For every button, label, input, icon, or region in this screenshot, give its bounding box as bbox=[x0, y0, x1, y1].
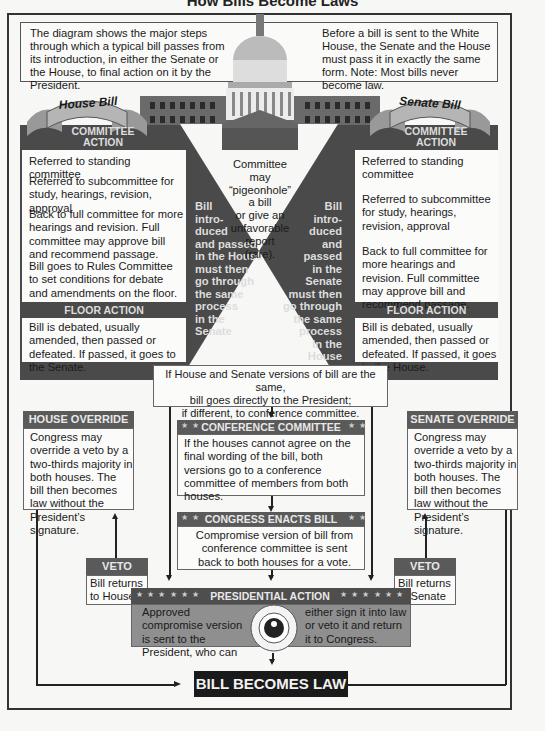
star-icons: ★ ★ bbox=[348, 421, 367, 430]
house-override-header: HOUSE OVERRIDE bbox=[23, 411, 134, 428]
connector-line bbox=[169, 407, 171, 578]
arrow-down-icon bbox=[269, 659, 275, 665]
conference-text: If the houses cannot agree on the final … bbox=[184, 437, 362, 503]
house-committee-header: COMMITTEE ACTION bbox=[22, 126, 184, 148]
senate-override-text: Congress may override a veto by a two-th… bbox=[414, 431, 517, 537]
senate-step-2: Referred to subcommittee for study, hear… bbox=[362, 193, 497, 233]
capitol-dome-icon bbox=[222, 10, 298, 150]
arrow-down-icon bbox=[166, 575, 172, 581]
versions-note: If House and Senate versions of bill are… bbox=[153, 365, 388, 407]
enacts-header: CONGRESS ENACTS BILL bbox=[200, 513, 342, 525]
arrow-down-icon bbox=[268, 412, 274, 418]
house-override-text: Congress may override a veto by a two-th… bbox=[30, 431, 133, 537]
senate-override-header: SENATE OVERRIDE bbox=[407, 411, 518, 428]
senate-floor-header: FLOOR ACTION bbox=[355, 304, 498, 316]
house-veto-header: VETO bbox=[86, 558, 148, 575]
house-floor-header: FLOOR ACTION bbox=[22, 304, 186, 316]
senate-process-note: Bill intro- duced and passed in the Sena… bbox=[282, 200, 342, 363]
connector-line bbox=[371, 407, 373, 578]
star-icons: ★ ★ ★ ★ ★ ★ bbox=[340, 590, 404, 599]
connector-line bbox=[36, 684, 176, 686]
intro-left-text: The diagram shows the major steps throug… bbox=[30, 27, 230, 92]
senate-committee-header: COMMITTEE ACTION bbox=[355, 126, 517, 148]
intro-right-text: Before a bill is sent to the White House… bbox=[322, 27, 492, 92]
star-icons: ★ ★ bbox=[181, 513, 200, 522]
connector-line bbox=[505, 510, 507, 685]
conference-header: CONFERENCE COMMITTEE bbox=[200, 421, 342, 433]
bill-becomes-law-box: BILL BECOMES LAW bbox=[194, 671, 348, 697]
connector-line bbox=[425, 518, 427, 558]
diagram-title: How Bills Become Laws bbox=[0, 0, 545, 9]
arrow-up-icon bbox=[112, 513, 118, 519]
star-icons: ★ ★ bbox=[348, 513, 367, 522]
house-step-3: Back to full committee for more hearings… bbox=[29, 208, 184, 261]
arrow-down-icon bbox=[368, 575, 374, 581]
connector-line bbox=[36, 510, 38, 685]
senate-step-3: Back to full committee for more hearings… bbox=[362, 245, 497, 311]
presidential-header: PRESIDENTIAL ACTION bbox=[205, 590, 335, 602]
arrow-up-icon bbox=[422, 513, 428, 519]
connector-line bbox=[115, 518, 117, 558]
star-icons: ★ ★ bbox=[181, 421, 200, 430]
senate-veto-header: VETO bbox=[394, 558, 456, 575]
house-step-4: Bill goes to Rules Committee to set cond… bbox=[29, 260, 184, 300]
presidential-left-text: Approved compromise version is sent to t… bbox=[142, 606, 250, 659]
enacts-text: Compromise version of bill from conferen… bbox=[192, 529, 357, 569]
presidential-right-text: either sign it into law or veto it and r… bbox=[305, 606, 409, 646]
arrow-down-icon bbox=[268, 575, 274, 581]
arrow-right-icon bbox=[174, 681, 181, 687]
presidential-seal-icon bbox=[249, 603, 299, 653]
senate-step-1: Referred to standing committee bbox=[362, 155, 497, 182]
star-icons: ★ ★ ★ ★ ★ ★ bbox=[136, 590, 200, 599]
connector-line bbox=[347, 684, 506, 686]
